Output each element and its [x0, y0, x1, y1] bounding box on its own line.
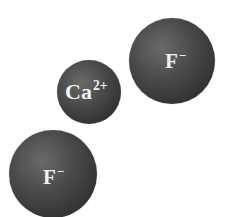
ion-symbol: F	[43, 165, 56, 189]
ion-charge: −	[57, 164, 64, 179]
fluoride-ion-bottom-label: F−	[43, 167, 64, 188]
ion-charge: −	[179, 48, 186, 63]
ion-symbol: F	[165, 49, 178, 73]
fluoride-ion-top-label: F−	[165, 51, 186, 72]
ion-diagram: F− Ca2+ F−	[0, 0, 233, 217]
ion-charge: 2+	[93, 78, 108, 93]
calcium-ion-label: Ca2+	[65, 81, 107, 103]
ion-symbol: Ca	[65, 79, 92, 104]
